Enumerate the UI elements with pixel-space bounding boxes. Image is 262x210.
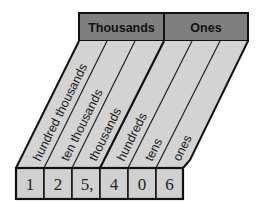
place-value-chart: Thousands Ones hundred thousands ten tho… [0, 0, 262, 210]
digit-hundreds: 4 [110, 175, 119, 194]
slanted-columns: hundred thousands ten thousands thousand… [16, 41, 248, 168]
digit-hundred-thousands: 1 [26, 175, 35, 194]
digit-boxes: 1 2 5, 4 0 6 [16, 168, 183, 199]
header-thousands-label: Thousands [88, 21, 155, 35]
group-header: Thousands Ones [79, 13, 248, 41]
digit-ten-thousands: 2 [54, 175, 63, 194]
digit-ones: 6 [165, 175, 174, 194]
header-ones-label: Ones [190, 21, 221, 35]
digit-thousands: 5, [81, 175, 94, 194]
digit-tens: 0 [138, 175, 147, 194]
